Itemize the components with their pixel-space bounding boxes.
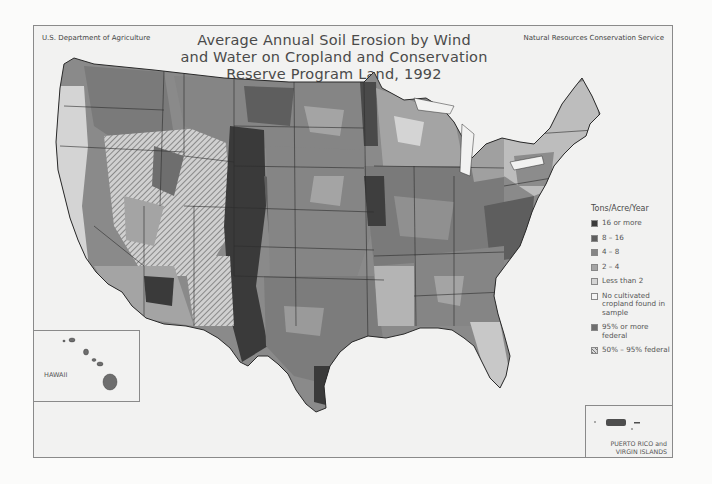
legend-item-50-95-federal: 50% – 95% federal [591,346,671,355]
legend-label: 8 – 16 [602,234,624,243]
map-frame: U.S. Department of Agriculture Natural R… [33,25,673,458]
legend-heading: Tons/Acre/Year [591,204,671,213]
hawaii-label: HAWAII [44,371,67,379]
legend-swatch-icon [591,220,598,227]
legend-swatch-icon [591,293,598,300]
legend-item-4-8: 4 – 8 [591,248,671,257]
legend-hatch-swatch-icon [591,347,598,354]
legend-label: No cultivated cropland found in sample [602,292,671,318]
legend-item-less-than-2: Less than 2 [591,277,671,286]
legend-item-16-or-more: 16 or more [591,219,671,228]
legend-label: 16 or more [602,219,642,228]
legend-swatch-icon [591,235,598,242]
legend-label: 2 – 4 [602,263,619,272]
legend-swatch-icon [591,278,598,285]
legend-label: 4 – 8 [602,248,619,257]
legend-item-95-federal: 95% or more federal [591,323,671,340]
legend-label: 50% – 95% federal [602,346,670,355]
legend-item-no-cropland: No cultivated cropland found in sample [591,292,671,318]
legend-swatch-icon [591,264,598,271]
legend-item-2-4: 2 – 4 [591,263,671,272]
map-legend: Tons/Acre/Year 16 or more 8 – 16 4 – 8 2… [591,204,671,361]
puerto-rico-inset: PUERTO RICO and VIRGIN ISLANDS [585,405,673,458]
hawaii-inset: HAWAII [34,330,140,402]
legend-swatch-icon [591,249,598,256]
legend-label: Less than 2 [602,277,643,286]
legend-item-8-16: 8 – 16 [591,234,671,243]
legend-label: 95% or more federal [602,323,671,340]
puerto-rico-label: PUERTO RICO and VIRGIN ISLANDS [610,440,667,455]
legend-swatch-icon [591,324,598,331]
pr-label-line-1: PUERTO RICO and [610,440,667,448]
pr-label-line-2: VIRGIN ISLANDS [610,448,667,456]
